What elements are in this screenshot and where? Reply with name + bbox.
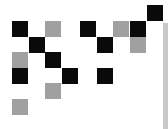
board-cell-gray[interactable] bbox=[45, 83, 61, 99]
board-cell-black[interactable] bbox=[130, 21, 146, 37]
board-cell-gray[interactable] bbox=[12, 52, 28, 68]
board-cell-black[interactable] bbox=[45, 52, 61, 68]
board-cell-gray[interactable] bbox=[45, 21, 61, 37]
side-scrollbar[interactable] bbox=[163, 23, 168, 129]
board-cell-gray[interactable] bbox=[12, 99, 28, 115]
board-cell-black[interactable] bbox=[62, 68, 78, 84]
board-cell-gray[interactable] bbox=[113, 21, 129, 37]
board-cell-black[interactable] bbox=[97, 68, 113, 84]
board-cell-black[interactable] bbox=[12, 68, 28, 84]
board-cell-black[interactable] bbox=[147, 5, 163, 21]
board-cell-black[interactable] bbox=[80, 21, 96, 37]
board-cell-black[interactable] bbox=[12, 21, 28, 37]
board-cell-black[interactable] bbox=[97, 37, 113, 53]
game-board bbox=[0, 0, 168, 129]
board-cell-gray[interactable] bbox=[130, 37, 146, 53]
board-cell-black[interactable] bbox=[29, 37, 45, 53]
